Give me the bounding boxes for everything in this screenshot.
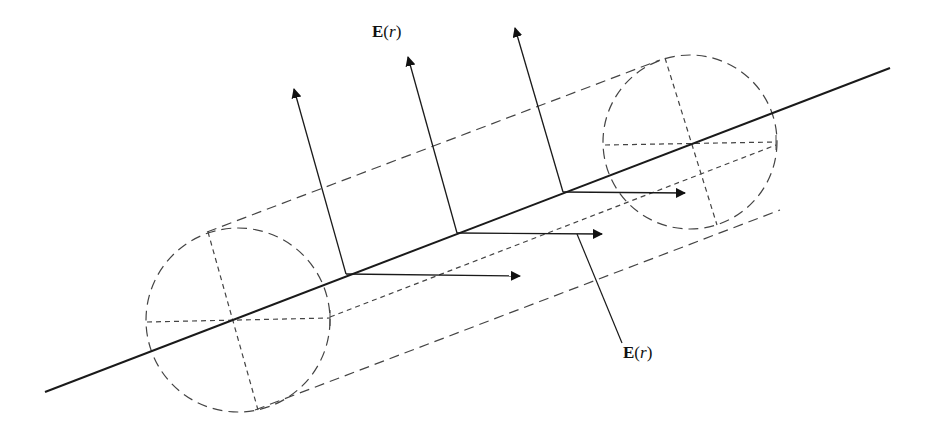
field-arrow-parallel — [563, 192, 685, 193]
field-arrow-perpendicular — [408, 57, 457, 233]
field-symbol: E — [372, 22, 383, 41]
diagram-svg — [0, 0, 931, 431]
field-label-bottom: E(r) — [623, 343, 652, 363]
cylinder-inner-edge — [330, 145, 776, 317]
field-arrows-parallel — [346, 192, 685, 276]
field-arrow-perpendicular — [515, 28, 563, 192]
field-leader-line — [577, 234, 622, 343]
left-cap-diameter-v — [208, 232, 258, 410]
line-charge — [45, 68, 890, 392]
field-arrow-parallel — [457, 233, 602, 234]
field-label-top: E(r) — [372, 22, 401, 42]
field-arrow-parallel — [346, 274, 520, 276]
field-variable: r — [640, 343, 647, 362]
field-arrows-perpendicular — [294, 28, 563, 274]
field-arrow-perpendicular — [294, 89, 346, 274]
right-cap-diameter-v — [665, 58, 717, 225]
cylinder-top-edge — [207, 60, 660, 232]
diagram-canvas: E(r) E(r) — [0, 0, 931, 431]
cylinder-bottom-edge — [255, 210, 780, 410]
field-variable: r — [389, 22, 396, 41]
field-symbol: E — [623, 343, 634, 362]
